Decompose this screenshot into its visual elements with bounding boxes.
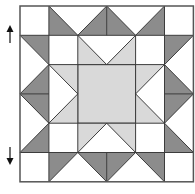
quilt-block-diagram	[0, 0, 195, 194]
direction-arrows	[7, 25, 14, 165]
center-square	[78, 65, 136, 124]
arrow-up-icon	[7, 25, 14, 32]
center-square-patch	[78, 65, 136, 124]
arrow-down-icon	[7, 158, 14, 165]
